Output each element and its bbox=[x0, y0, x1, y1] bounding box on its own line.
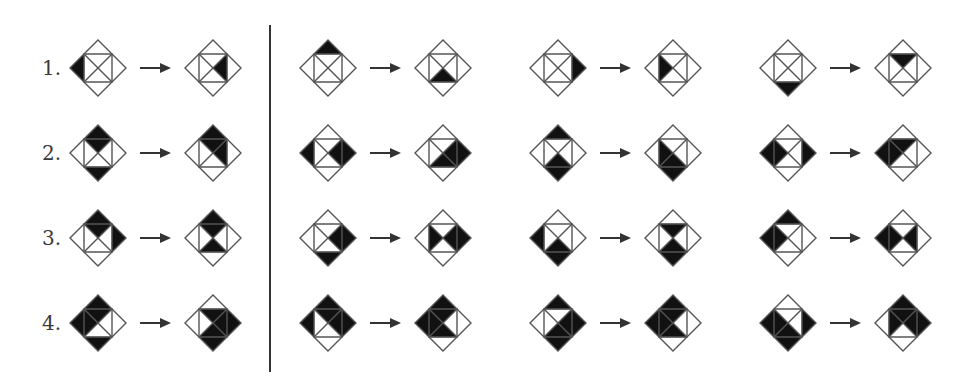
arrow-icon bbox=[370, 148, 401, 158]
shaded-region-T bbox=[659, 295, 687, 309]
shaded-region-b bbox=[199, 238, 227, 252]
shaded-region-R bbox=[572, 309, 586, 337]
shaded-region-r bbox=[443, 224, 457, 252]
shaded-region-L bbox=[70, 54, 84, 82]
rule-2-4-before-tile bbox=[760, 125, 816, 181]
rule-3-4-before-tile bbox=[760, 210, 816, 266]
shaded-region-L bbox=[300, 309, 314, 337]
shaded-region-R bbox=[572, 54, 586, 82]
rule-4-4-before-tile bbox=[760, 295, 816, 351]
shaded-region-L bbox=[760, 139, 774, 167]
row-label: 3. bbox=[42, 226, 61, 250]
transformation-rules-figure: 1.2.3.4. bbox=[0, 0, 968, 389]
shaded-region-b bbox=[544, 153, 572, 167]
shaded-region-l bbox=[774, 224, 788, 252]
rule-2-1-after-tile bbox=[185, 125, 241, 181]
rule-2-2-before-tile bbox=[300, 125, 356, 181]
shaded-region-L bbox=[300, 139, 314, 167]
shaded-region-R bbox=[227, 309, 241, 337]
rule-2-3-before-tile bbox=[530, 125, 586, 181]
arrow-icon bbox=[140, 233, 171, 243]
shaded-region-b bbox=[659, 238, 687, 252]
shaded-region-R bbox=[802, 309, 816, 337]
shaded-region-L bbox=[875, 139, 889, 167]
shaded-region-T bbox=[314, 295, 342, 309]
rule-2-1-before-tile bbox=[70, 125, 126, 181]
rule-1-4-after-tile bbox=[875, 40, 931, 96]
shaded-region-B bbox=[774, 82, 802, 96]
arrow-icon bbox=[830, 318, 861, 328]
rule-2-3-after-tile bbox=[645, 125, 701, 181]
shaded-region-B bbox=[659, 167, 687, 181]
shaded-region-B bbox=[544, 252, 572, 266]
row-label: 2. bbox=[42, 141, 61, 165]
shaded-region-R bbox=[342, 224, 356, 252]
shaded-region-B bbox=[199, 337, 227, 351]
row-label: 1. bbox=[42, 56, 61, 80]
arrow-icon bbox=[830, 233, 861, 243]
rule-1-4-before-tile bbox=[760, 40, 816, 96]
shaded-region-R bbox=[342, 139, 356, 167]
shaded-region-b bbox=[544, 238, 572, 252]
row-label: 4. bbox=[42, 311, 61, 335]
rule-3-3-before-tile bbox=[530, 210, 586, 266]
rule-2-4-after-tile bbox=[875, 125, 931, 181]
rule-3-1-before-tile bbox=[70, 210, 126, 266]
rule-3-2-after-tile bbox=[415, 210, 471, 266]
shaded-region-t bbox=[659, 224, 687, 238]
shaded-region-L bbox=[760, 224, 774, 252]
shaded-region-B bbox=[314, 252, 342, 266]
shaded-region-l bbox=[429, 224, 443, 252]
shaded-region-l bbox=[774, 139, 788, 167]
rule-3-4-after-tile bbox=[875, 210, 931, 266]
shaded-region-L bbox=[760, 309, 774, 337]
row-labels: 1.2.3.4. bbox=[42, 56, 61, 335]
rule-4-4-after-tile bbox=[875, 295, 931, 351]
rule-1-3-after-tile bbox=[645, 40, 701, 96]
shaded-region-R bbox=[342, 309, 356, 337]
arrow-icon bbox=[370, 318, 401, 328]
shaded-region-L bbox=[875, 224, 889, 252]
shaded-region-r bbox=[903, 224, 917, 252]
arrow-icon bbox=[600, 148, 631, 158]
rule-2-2-after-tile bbox=[415, 125, 471, 181]
shaded-region-T bbox=[84, 295, 112, 309]
shaded-region-R bbox=[917, 309, 931, 337]
rule-4-2-before-tile bbox=[300, 295, 356, 351]
shaded-region-B bbox=[84, 337, 112, 351]
shaded-region-R bbox=[112, 224, 126, 252]
arrow-icon bbox=[600, 63, 631, 73]
shaded-region-T bbox=[774, 210, 802, 224]
rule-3-3-after-tile bbox=[645, 210, 701, 266]
shaded-region-R bbox=[457, 224, 471, 252]
shaded-region-R bbox=[457, 139, 471, 167]
rule-1-3-before-tile bbox=[530, 40, 586, 96]
shaded-region-t bbox=[199, 224, 227, 238]
shaded-region-T bbox=[199, 125, 227, 139]
shaded-region-L bbox=[415, 309, 429, 337]
arrow-icon bbox=[140, 148, 171, 158]
shaded-region-L bbox=[70, 309, 84, 337]
shaded-region-B bbox=[84, 167, 112, 181]
shaded-region-T bbox=[314, 40, 342, 54]
rule-grid bbox=[70, 40, 931, 351]
rule-3-1-after-tile bbox=[185, 210, 241, 266]
arrow-icon bbox=[140, 63, 171, 73]
shaded-region-t bbox=[84, 224, 112, 238]
rule-4-1-before-tile bbox=[70, 295, 126, 351]
shaded-region-t bbox=[889, 54, 917, 68]
rule-4-2-after-tile bbox=[415, 295, 471, 351]
shaded-region-l bbox=[889, 224, 903, 252]
arrow-icon bbox=[600, 318, 631, 328]
rule-1-2-before-tile bbox=[300, 40, 356, 96]
rule-1-1-after-tile bbox=[185, 40, 241, 96]
rule-4-3-before-tile bbox=[530, 295, 586, 351]
shaded-region-B bbox=[544, 337, 572, 351]
arrow-icon bbox=[370, 233, 401, 243]
shaded-region-L bbox=[645, 309, 659, 337]
rule-4-1-after-tile bbox=[185, 295, 241, 351]
shaded-region-T bbox=[544, 295, 572, 309]
shaded-region-T bbox=[429, 295, 457, 309]
shaded-region-r bbox=[328, 224, 342, 252]
shaded-region-T bbox=[544, 125, 572, 139]
